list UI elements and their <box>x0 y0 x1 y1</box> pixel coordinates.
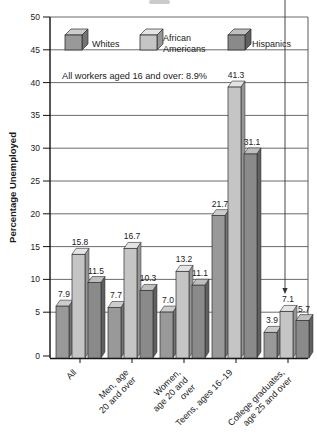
chart-canvas: 51015202530354045500WhitesAfricanAmerica… <box>0 0 317 438</box>
x-category-label-1: Men, age20 and over <box>90 367 138 415</box>
bar-whites-2 <box>160 312 173 358</box>
y-tick-label-25: 25 <box>31 176 41 186</box>
legend-label-2: Hispanics <box>252 39 292 49</box>
bar-side-hispanics-2 <box>205 279 209 358</box>
bar-value-label: 11.5 <box>88 266 104 276</box>
bar-african-americans-1 <box>124 248 137 358</box>
y-tick-label-30: 30 <box>31 143 41 153</box>
bar-value-label: 11.1 <box>192 268 208 278</box>
legend-label-1: AfricanAmericans <box>163 33 206 54</box>
cropped-text-artifact <box>149 0 170 4</box>
y-tick-label-40: 40 <box>31 78 41 88</box>
legend-cube-icon-1 <box>140 35 157 50</box>
bar-hispanics-1 <box>140 290 153 358</box>
legend-cube-icon-2 <box>228 35 245 50</box>
bar-value-label: 5.7 <box>298 304 310 314</box>
bar-whites-3 <box>212 216 225 358</box>
bar-value-label: 31.1 <box>244 137 261 147</box>
y-tick-label-50: 50 <box>31 12 41 22</box>
bar-side-hispanics-4 <box>309 315 313 358</box>
y-tick-label-35: 35 <box>31 110 41 120</box>
bar-value-label: 3.9 <box>266 315 278 325</box>
chart-annotation: All workers aged 16 and over: 8.9% <box>62 71 207 81</box>
bar-side-hispanics-3 <box>257 148 261 358</box>
callout-arrowhead <box>282 288 287 294</box>
bar-value-label: 7.9 <box>58 289 70 299</box>
y-tick-label-15: 15 <box>31 242 41 252</box>
bar-african-americans-2 <box>176 271 189 358</box>
y-axis-title: Percentage Unemployed <box>7 118 18 258</box>
bar-value-label: 7.7 <box>110 290 122 300</box>
bar-hispanics-3 <box>244 154 257 358</box>
bar-value-label: 41.3 <box>228 70 245 80</box>
bar-whites-0 <box>56 306 69 358</box>
unemployment-bar-chart-figure: 51015202530354045500WhitesAfricanAmerica… <box>0 0 317 438</box>
bar-value-label: 21.7 <box>212 199 229 209</box>
bar-whites-1 <box>108 307 121 358</box>
bar-hispanics-4 <box>296 321 309 358</box>
bar-value-label: 7.0 <box>162 295 174 305</box>
bar-value-label: 10.3 <box>140 273 157 283</box>
bar-value-label: 16.7 <box>124 231 141 241</box>
legend-label-0: Whites <box>92 39 120 49</box>
bar-side-hispanics-0 <box>101 277 105 358</box>
x-category-label-0: All <box>64 367 78 381</box>
y-tick-label-20: 20 <box>31 209 41 219</box>
bar-side-hispanics-1 <box>153 284 157 358</box>
y-tick-label-0: 0 <box>35 351 40 361</box>
bar-value-label: 7.1 <box>282 294 294 304</box>
bar-hispanics-0 <box>88 283 101 358</box>
bar-african-americans-4 <box>280 311 293 358</box>
y-tick-label-45: 45 <box>31 45 41 55</box>
bar-value-label: 13.2 <box>176 254 193 264</box>
bar-value-label: 15.8 <box>72 237 89 247</box>
bar-african-americans-0 <box>72 254 85 358</box>
bar-hispanics-2 <box>192 285 205 358</box>
bar-whites-4 <box>264 332 277 358</box>
bar-african-americans-3 <box>228 87 241 358</box>
x-category-label-4: College graduates,age 25 and over <box>226 367 294 435</box>
y-tick-label-5: 5 <box>35 307 40 317</box>
y-tick-label-10: 10 <box>31 274 41 284</box>
legend-cube-icon-0 <box>65 35 82 50</box>
